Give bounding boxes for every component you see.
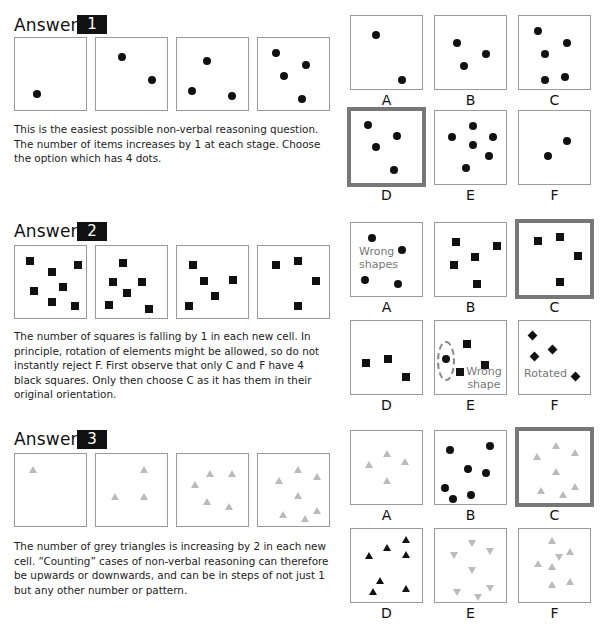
annotation-note: Rotated (524, 367, 567, 380)
answer-number-badge: 1 (77, 15, 107, 34)
option-b[interactable] (434, 222, 507, 297)
inverted-triangle-icon (468, 540, 476, 547)
square-icon (456, 368, 464, 376)
option-c-selected[interactable] (515, 427, 594, 507)
explanation-text: The number of squares is falling by 1 in… (14, 329, 334, 402)
option-f[interactable] (518, 528, 591, 603)
dot-icon (462, 164, 470, 172)
option-label: F (518, 605, 591, 621)
explanation-text: The number of grey triangles is increasi… (14, 539, 334, 597)
option-d[interactable] (350, 320, 423, 395)
square-icon (556, 278, 564, 286)
grey-triangle-icon (383, 477, 391, 484)
dot-icon (390, 166, 398, 174)
option-label: D (350, 187, 423, 203)
inverted-triangle-icon (486, 585, 494, 592)
grey-triangle-icon (552, 468, 560, 475)
dot-icon (272, 49, 280, 57)
option-e[interactable] (434, 110, 507, 185)
square-icon (145, 305, 153, 313)
dot-icon (469, 122, 477, 130)
black-triangle-icon (365, 552, 373, 559)
sequence-cell (176, 453, 249, 527)
inverted-triangle-icon (555, 554, 563, 561)
dot-icon (453, 39, 461, 47)
sequence-cell (176, 37, 249, 111)
option-label: E (434, 187, 507, 203)
dot-icon (302, 61, 310, 69)
inverted-triangle-icon (474, 594, 482, 601)
grey-triangle-icon (206, 470, 214, 477)
option-d[interactable] (350, 528, 423, 603)
grey-triangle-icon (191, 481, 199, 488)
option-label: B (434, 92, 507, 108)
annotation-note: Wrong shape (464, 365, 504, 391)
black-triangle-icon (402, 551, 410, 558)
square-icon (30, 287, 38, 295)
dot-icon (486, 442, 494, 450)
option-label: C (518, 507, 591, 523)
square-icon (200, 277, 208, 285)
grey-triangle-icon (279, 511, 287, 518)
option-c[interactable] (518, 15, 591, 90)
option-label: B (434, 299, 507, 315)
grey-triangle-icon (383, 450, 391, 457)
sequence-cell (95, 37, 168, 111)
dot-icon (228, 92, 236, 100)
dashed-ellipse-highlight (437, 341, 455, 381)
dot-icon (544, 152, 552, 160)
grey-triangle-icon (225, 503, 233, 510)
option-a[interactable]: Wrong shapes (350, 222, 423, 297)
option-f[interactable]: Rotated (518, 320, 591, 395)
dot-icon (469, 141, 477, 149)
dot-icon (446, 446, 454, 454)
square-icon (59, 283, 67, 291)
option-e[interactable]: Wrong shape (434, 320, 507, 395)
grey-triangle-icon (203, 498, 211, 505)
answer-number-badge: 3 (77, 430, 107, 449)
dot-icon (364, 121, 372, 129)
square-icon (71, 302, 79, 310)
diamond-icon (547, 344, 557, 354)
option-e[interactable] (434, 528, 507, 603)
diamond-icon (529, 351, 539, 361)
dot-icon (203, 57, 211, 65)
inverted-triangle-icon (450, 552, 458, 559)
grey-triangle-icon (313, 473, 321, 480)
square-icon (493, 242, 501, 250)
dot-icon (361, 276, 369, 284)
square-icon (294, 302, 302, 310)
option-a[interactable] (350, 430, 423, 505)
option-d-selected[interactable] (347, 107, 426, 187)
square-icon (384, 355, 392, 363)
sequence-cell (14, 245, 87, 319)
square-icon (294, 257, 302, 265)
diamond-icon (527, 330, 537, 340)
grey-triangle-icon (140, 466, 148, 473)
dot-icon (393, 132, 401, 140)
inverted-triangle-icon (486, 548, 494, 555)
sequence-cell (176, 245, 249, 319)
dot-icon (372, 31, 380, 39)
dot-icon (485, 152, 493, 160)
option-c-selected[interactable] (515, 219, 594, 299)
grey-triangle-icon (111, 493, 119, 500)
square-icon (229, 276, 237, 284)
dot-icon (448, 133, 456, 141)
option-b[interactable] (434, 430, 507, 505)
option-f[interactable] (518, 110, 591, 185)
square-icon (119, 259, 127, 267)
grey-triangle-icon (548, 537, 556, 544)
option-b[interactable] (434, 15, 507, 90)
grey-triangle-icon (548, 563, 556, 570)
square-icon (105, 301, 113, 309)
answer-label: Answer (14, 15, 78, 35)
dot-icon (33, 90, 41, 98)
option-a[interactable] (350, 15, 423, 90)
square-icon (312, 277, 320, 285)
square-icon (123, 289, 131, 297)
sequence-cell (95, 245, 168, 319)
sequence-cell (257, 245, 330, 319)
diamond-icon (570, 371, 580, 381)
square-icon (211, 292, 219, 300)
